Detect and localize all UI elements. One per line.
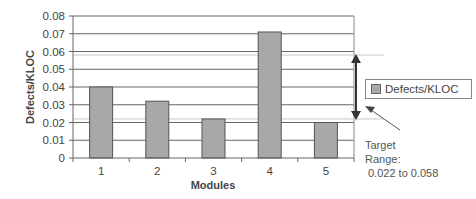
- y-tick-label: 0.03: [43, 99, 65, 111]
- x-tick-label: 2: [154, 165, 160, 177]
- y-tick-label: 0.05: [43, 63, 65, 75]
- pointer-arrow: [365, 106, 400, 130]
- x-tick-label: 4: [266, 165, 273, 177]
- y-tick-label: 0: [59, 152, 65, 164]
- target-range-annotation: Target Range: 0.022 to 0.058: [365, 138, 438, 180]
- bar: [146, 101, 169, 158]
- x-tick-label: 5: [323, 165, 329, 177]
- legend-label: Defects/KLOC: [385, 83, 459, 95]
- bar: [90, 87, 113, 158]
- x-tick-label: 1: [98, 165, 104, 177]
- annotation-line-1: Target: [365, 138, 438, 152]
- y-tick-labels: 00.010.020.030.040.050.060.070.08: [43, 10, 66, 164]
- y-tick-label: 0.02: [43, 117, 65, 129]
- legend: Defects/KLOC: [365, 79, 472, 99]
- y-tick-label: 0.08: [43, 10, 65, 22]
- x-tick-label: 3: [210, 165, 216, 177]
- bar: [314, 123, 337, 159]
- annotation-line-2: Range:: [365, 152, 438, 166]
- bars: [90, 32, 338, 158]
- y-tick-label: 0.06: [43, 46, 65, 58]
- y-axis-title: Defects/KLOC: [24, 50, 36, 124]
- bar: [258, 32, 281, 158]
- annotation-line-3: 0.022 to 0.058: [365, 166, 438, 180]
- y-tick-label: 0.04: [43, 81, 66, 93]
- x-tick-labels: 12345: [98, 165, 329, 177]
- bar: [202, 119, 225, 158]
- y-tick-label: 0.01: [43, 134, 65, 146]
- legend-swatch: [371, 84, 381, 94]
- x-axis-title: Modules: [191, 179, 236, 191]
- y-tick-label: 0.07: [43, 28, 65, 40]
